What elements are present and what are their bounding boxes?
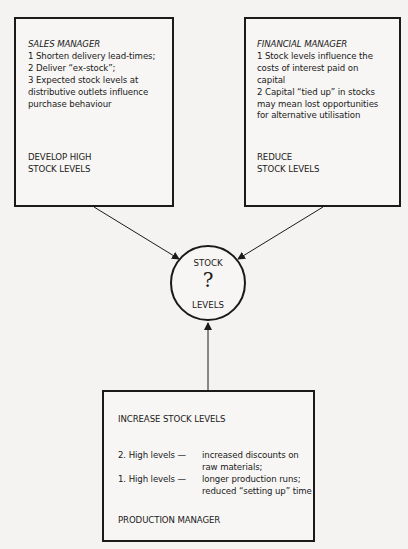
production-items: 2. High levels — increased discounts on … <box>118 450 312 498</box>
sales-point: distributive outlets influence <box>28 87 170 99</box>
production-item-text: reduced “setting up” time <box>202 486 312 498</box>
sales-point: 3 Expected stock levels at <box>28 75 170 87</box>
sales-outcome-line1: DEVELOP HIGH <box>28 152 91 164</box>
financial-point: 2 Capital “tied up” in stocks <box>257 87 397 99</box>
sales-manager-text: SALES MANAGER 1 Shorten delivery lead-ti… <box>28 39 170 110</box>
production-item-cont: raw materials; <box>118 462 312 474</box>
financial-to-stock-arrow <box>238 207 323 259</box>
production-item-text: raw materials; <box>202 462 262 474</box>
financial-point: capital <box>257 75 397 87</box>
financial-outcome: REDUCE STOCK LEVELS <box>257 152 319 176</box>
production-item: 1. High levels — longer production runs; <box>118 474 312 486</box>
production-item: 2. High levels — increased discounts on <box>118 450 312 462</box>
sales-outcome-line2: STOCK LEVELS <box>28 164 91 176</box>
question-mark-icon: ? <box>170 268 246 292</box>
financial-point: may mean lost opportunities <box>257 99 397 111</box>
financial-outcome-line2: STOCK LEVELS <box>257 164 319 176</box>
production-item-text: longer production runs; <box>202 474 300 486</box>
financial-point: for alternative utilisation <box>257 110 397 122</box>
sales-point: 1 Shorten delivery lead-times; <box>28 51 170 63</box>
financial-outcome-line1: REDUCE <box>257 152 319 164</box>
sales-point: 2 Deliver “ex-stock”; <box>28 63 170 75</box>
financial-manager-role: FINANCIAL MANAGER <box>257 39 397 51</box>
financial-manager-text: FINANCIAL MANAGER 1 Stock levels influen… <box>257 39 397 122</box>
financial-point: costs of interest paid on <box>257 63 397 75</box>
financial-point: 1 Stock levels influence the <box>257 51 397 63</box>
production-item-label: 1. High levels — <box>118 474 202 486</box>
levels-label: LEVELS <box>170 300 246 310</box>
production-manager-role: PRODUCTION MANAGER <box>118 515 220 527</box>
sales-manager-box: SALES MANAGER 1 Shorten delivery lead-ti… <box>14 17 174 207</box>
sales-point: purchase behaviour <box>28 99 170 111</box>
sales-outcome: DEVELOP HIGH STOCK LEVELS <box>28 152 91 176</box>
production-manager-box: INCREASE STOCK LEVELS 2. High levels — i… <box>102 390 315 542</box>
financial-manager-box: FINANCIAL MANAGER 1 Stock levels influen… <box>244 17 401 207</box>
stock-label: STOCK <box>170 258 246 268</box>
production-item-text: increased discounts on <box>202 450 299 462</box>
production-item-label: 2. High levels — <box>118 450 202 462</box>
production-item-cont: reduced “setting up” time <box>118 486 312 498</box>
production-title: INCREASE STOCK LEVELS <box>118 414 225 426</box>
sales-manager-role: SALES MANAGER <box>28 39 170 51</box>
sales-to-stock-arrow <box>94 207 179 259</box>
